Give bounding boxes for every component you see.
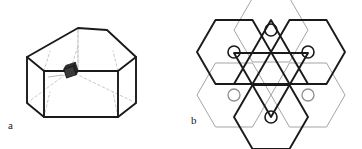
panel-a-roof-left-edge [27, 57, 44, 71]
circle-lower-left [228, 89, 240, 101]
hidden-diagonal-right [76, 74, 136, 103]
circle-upper-right [302, 46, 314, 58]
hidden-edge-back-left [44, 51, 50, 71]
panel-b-group [197, 0, 345, 149]
circle-top [265, 24, 277, 36]
panel-label-b: b [191, 115, 197, 126]
circle-lower-right [302, 89, 314, 101]
panel-label-a: a [8, 120, 13, 131]
panel-a-group [27, 28, 136, 117]
panel-a-front-face [44, 71, 118, 117]
panel-b-star-triangles [234, 20, 308, 117]
panel-a-marker-leader [48, 75, 63, 77]
hidden-edge-back-right [113, 51, 118, 71]
panel-a-roof-right-edge [118, 57, 136, 71]
circle-upper-left [228, 46, 240, 58]
figure-svg [0, 0, 362, 149]
panel-a-marker [63, 62, 79, 77]
hidden-diagonal-left [27, 74, 66, 103]
figure-container: a b [0, 0, 362, 149]
